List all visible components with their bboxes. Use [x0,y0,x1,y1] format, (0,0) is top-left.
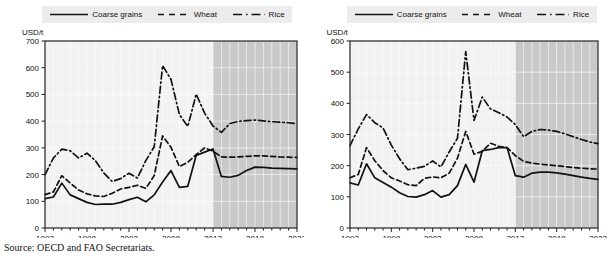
x-tick-label: 1998 [382,234,400,238]
source-note: Source: OECD and FAO Secretariats. [4,242,155,254]
y-tick-label: 400 [330,99,344,108]
x-tick-label: 1998 [78,234,96,238]
x-tick-label: 2003 [423,234,441,238]
y-tick-label: 200 [26,171,40,180]
x-tick-label: 2003 [120,234,138,238]
x-tick-label: 2018 [246,234,264,238]
x-tick-label: 2008 [162,234,180,238]
x-tick-label: 2018 [547,234,565,238]
y-tick-label: 700 [26,37,40,46]
price-projection-figure: Coarse grains Wheat Rice USD/t 010020030… [0,0,609,265]
y-tick-label: 500 [330,68,344,77]
y-tick-label: 100 [26,197,40,206]
left-line-chart: 0100200300400500600700199319982003200820… [0,0,304,238]
x-tick-label: 2023 [288,234,304,238]
left-chart-panel: Coarse grains Wheat Rice USD/t 010020030… [0,0,305,238]
y-tick-label: 600 [26,64,40,73]
y-tick-label: 200 [330,162,344,171]
right-chart-panel: Coarse grains Wheat Rice USD/t 010020030… [305,0,609,238]
x-tick-label: 1993 [341,234,359,238]
x-tick-label: 2013 [204,234,222,238]
y-tick-label: 300 [26,144,40,153]
y-tick-label: 500 [26,90,40,99]
x-tick-label: 2023 [589,234,607,238]
chart-panels: Coarse grains Wheat Rice USD/t 010020030… [0,0,609,238]
y-tick-label: 400 [26,117,40,126]
x-tick-label: 1993 [36,234,54,238]
x-tick-label: 2013 [506,234,524,238]
y-tick-label: 0 [35,224,40,233]
right-line-chart: 0100200300400500600199319982003200820132… [305,0,609,238]
y-tick-label: 300 [330,131,344,140]
y-tick-label: 100 [330,193,344,202]
y-tick-label: 0 [339,224,344,233]
x-tick-label: 2008 [465,234,483,238]
y-tick-label: 600 [330,37,344,46]
